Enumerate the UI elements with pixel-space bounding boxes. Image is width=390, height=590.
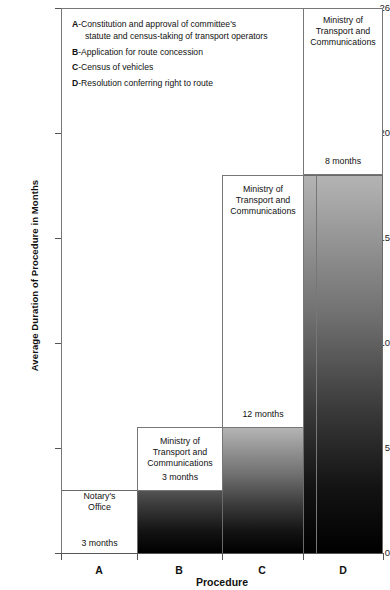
x-tick-label-d: D	[323, 564, 363, 576]
x-tick-label-a: A	[79, 564, 119, 576]
bar-a-agency-line2: Office	[62, 502, 137, 513]
legend-item-b: B-Application for route concession	[72, 46, 312, 58]
legend-item-a: A-Constitution and approval of committee…	[72, 18, 312, 30]
legend-text-b: Application for route concession	[81, 47, 203, 57]
x-axis-title: Procedure	[61, 576, 383, 588]
bar-d-agency-line1: Ministry of	[304, 15, 382, 26]
bar-d-duration: 8 months	[304, 156, 382, 167]
legend-text-d: Resolution conferring right to route	[81, 78, 213, 88]
bar-a-agency-line1: Notary's	[62, 491, 137, 502]
x-tick-2	[222, 553, 223, 560]
bar-a-duration: 3 months	[62, 538, 137, 548]
bar-chart: 26 20 15 10 5 0 Average Duration of Proc…	[0, 0, 390, 590]
bar-d	[303, 175, 383, 554]
x-tick-4	[383, 553, 384, 560]
y-tick-26	[55, 8, 62, 9]
bar-c-body	[222, 427, 304, 554]
bar-a-agency: Notary's Office	[62, 491, 137, 513]
bar-d-agency-line3: Communications	[304, 37, 382, 48]
bar-b-label-card: Ministry of Transport and Communications…	[137, 427, 223, 491]
bar-c-agency-line2: Transport and	[223, 195, 303, 206]
bar-c-agency: Ministry of Transport and Communications	[223, 184, 303, 217]
legend-item-d: D-Resolution conferring right to route	[72, 77, 312, 89]
bar-b-agency-line2: Transport and	[138, 447, 222, 458]
x-tick-label-c: C	[242, 564, 282, 576]
y-axis-line	[61, 8, 62, 554]
bar-c-agency-line1: Ministry of	[223, 184, 303, 195]
x-tick-0	[61, 553, 62, 560]
y-tick-10	[55, 343, 62, 344]
y-tick-5	[55, 448, 62, 449]
y-tick-15	[55, 238, 62, 239]
x-tick-label-b: B	[159, 564, 199, 576]
legend-item-c: C-Census of vehicles	[72, 61, 312, 73]
bar-d-agency-line2: Transport and	[304, 26, 382, 37]
bar-c-label-card: Ministry of Transport and Communications…	[222, 175, 304, 428]
bar-d-label-card: Ministry of Transport and Communications…	[303, 8, 383, 175]
bar-c-duration: 12 months	[223, 409, 303, 420]
bar-b-agency: Ministry of Transport and Communications	[138, 436, 222, 469]
bar-b-agency-line3: Communications	[138, 458, 222, 469]
y-tick-20	[55, 133, 62, 134]
bar-c-agency-line3: Communications	[223, 206, 303, 217]
y-axis-title: Average Duration of Procedure in Months	[29, 156, 40, 396]
x-tick-3	[303, 553, 304, 560]
x-tick-1	[137, 553, 138, 560]
legend-item-a-cont: statute and census-taking of transport o…	[72, 30, 312, 42]
legend-text-c: Census of vehicles	[81, 62, 153, 72]
legend-entries: A-Constitution and approval of committee…	[72, 18, 312, 89]
legend-text-a: Constitution and approval of committee's	[81, 19, 236, 29]
bar-b-duration: 3 months	[138, 472, 222, 483]
bar-b-agency-line1: Ministry of	[138, 436, 222, 447]
bar-d-agency: Ministry of Transport and Communications	[304, 15, 382, 48]
